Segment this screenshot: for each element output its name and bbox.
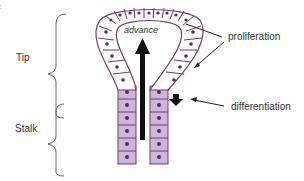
advance-arrow-icon	[135, 38, 150, 140]
proliferation-label: proliferation	[228, 31, 280, 42]
advance-label: advance	[124, 25, 158, 35]
stalk-left	[118, 86, 136, 164]
stalk-brace	[48, 104, 64, 176]
stalk-label: Stalk	[15, 123, 37, 134]
differentiation-pointer	[194, 100, 224, 106]
tip-bulb	[96, 8, 203, 90]
tip-label: Tip	[16, 52, 30, 63]
tip-brace	[48, 14, 66, 118]
differentiation-label: differentiation	[231, 101, 291, 112]
differentiation-arrow-icon	[169, 94, 183, 106]
stalk-right	[150, 86, 168, 164]
